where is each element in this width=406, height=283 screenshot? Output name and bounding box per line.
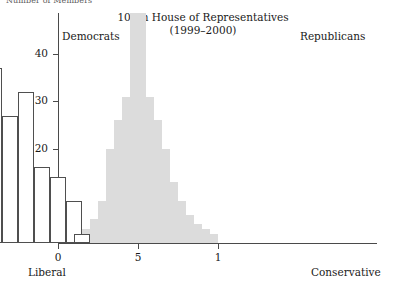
republicans-group-label: Republicans bbox=[300, 30, 365, 42]
x-tick-4 bbox=[218, 244, 219, 249]
plot-area bbox=[58, 13, 376, 243]
bar bbox=[34, 167, 50, 243]
y-axis-caption: Number of Members bbox=[6, 0, 92, 5]
x-tick-2 bbox=[58, 244, 59, 249]
x-axis-conservative-label: Conservative bbox=[311, 266, 381, 278]
x-tick-3 bbox=[138, 244, 139, 249]
bar bbox=[74, 234, 90, 243]
y-tick-label-40: 40 bbox=[22, 47, 48, 59]
x-tick-label-4: 1 bbox=[198, 251, 238, 263]
bar bbox=[2, 116, 18, 243]
democrats-group-label: Democrats bbox=[62, 30, 120, 42]
bar bbox=[50, 177, 66, 243]
histogram-figure: Number of Members 106th House of Represe… bbox=[0, 0, 406, 283]
bar bbox=[18, 92, 34, 243]
bar bbox=[202, 234, 218, 243]
x-tick-label-2: 0 bbox=[38, 251, 78, 263]
x-tick-label-3: 5 bbox=[118, 251, 158, 263]
x-axis-liberal-label: Liberal bbox=[28, 266, 66, 278]
